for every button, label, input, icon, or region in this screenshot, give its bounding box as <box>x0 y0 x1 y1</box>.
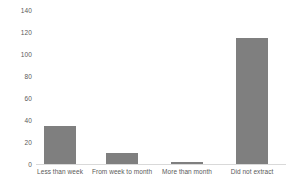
bar-more-than-month <box>171 162 203 164</box>
x-axis-label-more-than-month: More than month <box>153 168 221 176</box>
x-axis-label-did-not-extract: Did not extract <box>218 168 286 176</box>
y-axis-tick-label: 120 <box>2 29 32 36</box>
bar-did-not-extract <box>236 38 268 165</box>
y-axis-tick-label: 20 <box>2 139 32 146</box>
y-axis-tick-label: 0 <box>2 161 32 168</box>
bar-series <box>36 10 286 164</box>
y-axis-tick-label: 140 <box>2 7 32 14</box>
x-axis-baseline <box>36 164 286 165</box>
bar-slot <box>44 10 76 164</box>
bar-less-than-week <box>44 126 76 165</box>
y-axis-tick-label: 80 <box>2 73 32 80</box>
bar-slot <box>106 10 138 164</box>
x-axis: Less than week From week to month More t… <box>36 166 286 186</box>
bar-slot <box>171 10 203 164</box>
y-axis-tick-label: 60 <box>2 95 32 102</box>
x-axis-label-from-week-to-month: From week to month <box>82 168 162 176</box>
y-axis: 140 120 100 80 60 40 20 0 <box>0 0 36 188</box>
bar-chart: 140 120 100 80 60 40 20 0 Less than week… <box>0 0 288 188</box>
bar-from-week-to-month <box>106 153 138 164</box>
y-axis-tick-label: 40 <box>2 117 32 124</box>
y-axis-tick-label: 100 <box>2 51 32 58</box>
bar-slot <box>236 10 268 164</box>
